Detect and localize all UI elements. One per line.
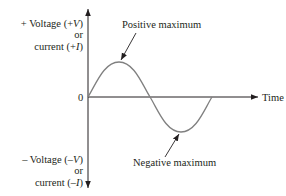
y-negative-label-line2: or	[74, 165, 83, 176]
y-positive-label-line3: current (+I)	[34, 41, 83, 53]
positive-maximum-label: Positive maximum	[122, 19, 201, 30]
sine-wave-diagram: Positive maximum Negative maximum 0 Time…	[0, 0, 286, 196]
origin-label: 0	[78, 92, 83, 103]
y-negative-label-line3: current (–I)	[35, 177, 84, 189]
negative-maximum-label: Negative maximum	[133, 157, 216, 168]
positive-maximum-arrow	[121, 33, 136, 60]
negative-maximum-arrow	[165, 134, 179, 157]
y-positive-label-line2: or	[74, 29, 83, 40]
time-axis-label: Time (t)	[262, 92, 286, 104]
